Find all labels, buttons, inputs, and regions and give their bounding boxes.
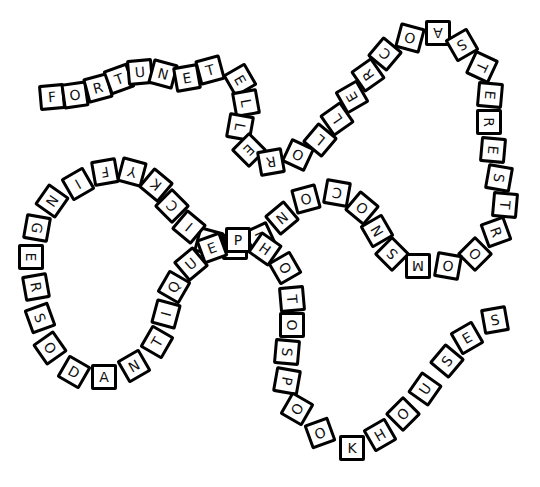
tile-letter: C — [164, 198, 181, 215]
letter-tile[interactable]: R — [21, 272, 51, 302]
letter-tile[interactable]: O — [279, 312, 305, 338]
tile-letter: S — [32, 311, 48, 324]
tile-letter: S — [455, 37, 470, 54]
tile-letter: P — [234, 233, 242, 247]
tile-letter: M — [412, 259, 424, 273]
tile-letter: I — [73, 177, 84, 191]
tile-letter: F — [47, 90, 56, 105]
tile-letter: P — [279, 376, 294, 387]
letter-tile[interactable]: S — [273, 338, 301, 366]
tile-letter: E — [24, 253, 38, 262]
tile-letter: R — [28, 281, 43, 293]
tile-letter: N — [156, 66, 170, 82]
letter-tile[interactable]: T — [139, 324, 175, 360]
letter-tile[interactable]: O — [279, 391, 315, 427]
tile-letter: E — [486, 145, 501, 155]
letter-tile[interactable]: O — [303, 416, 336, 449]
tile-letter: O — [69, 87, 82, 102]
tile-letter: N — [43, 193, 60, 210]
tile-letter: O — [41, 339, 59, 356]
tile-letter: T — [474, 60, 490, 74]
tile-letter: D — [66, 363, 82, 381]
tile-letter: E — [205, 240, 218, 256]
letter-tile[interactable]: R — [476, 109, 502, 135]
tile-letter: O — [441, 258, 454, 274]
tile-letter: A — [99, 370, 109, 384]
tile-letter: N — [126, 357, 142, 374]
tile-letter: T — [498, 200, 513, 210]
letter-tile[interactable]: O — [433, 251, 463, 281]
tile-letter: O — [276, 260, 294, 277]
tile-letter: R — [482, 117, 496, 127]
tile-letter: N — [273, 209, 290, 226]
letter-tile[interactable]: O — [290, 183, 322, 215]
tile-letter: G — [29, 221, 45, 234]
tile-letter: H — [257, 240, 274, 258]
tile-letter: C — [377, 45, 393, 62]
tile-letter: O — [290, 146, 306, 163]
tile-letter: F — [100, 164, 110, 179]
tile-letter: E — [181, 70, 192, 85]
tile-letter: E — [344, 90, 361, 105]
tile-letter: S — [384, 246, 400, 262]
letter-tile[interactable]: S — [480, 305, 510, 335]
tile-letter: E — [232, 73, 249, 88]
tile-letter: Q — [165, 279, 183, 296]
tile-letter: O — [466, 245, 484, 263]
tile-letter: E — [460, 330, 475, 347]
tile-letter: R — [265, 154, 277, 169]
tile-letter: N — [368, 223, 385, 239]
tile-letter: L — [313, 132, 328, 148]
tile-letter: R — [359, 67, 376, 83]
tile-letter: T — [204, 62, 216, 78]
letter-tile[interactable]: O — [32, 330, 68, 366]
tile-letter: T — [285, 294, 300, 304]
tile-letter: Y — [126, 164, 138, 180]
letter-tile[interactable]: G — [22, 213, 52, 243]
tile-letter: R — [91, 80, 104, 96]
tile-letter: L — [329, 112, 345, 126]
letter-tile[interactable]: D — [56, 354, 92, 390]
letter-tile[interactable]: E — [479, 136, 507, 164]
letter-tile[interactable]: N — [116, 348, 152, 384]
tile-letter: T — [149, 335, 165, 349]
tile-letter: U — [134, 65, 145, 80]
tile-letter: K — [347, 441, 356, 455]
tile-letter: T — [113, 71, 126, 87]
tile-letter: U — [183, 255, 200, 272]
word-path-board: FORTUNETELLEROLLERCOASTERESTROOMSNOCONES… — [0, 0, 540, 487]
letter-tile[interactable]: E — [476, 81, 504, 109]
tile-letter: I — [183, 220, 195, 233]
tile-letter: U — [416, 381, 433, 397]
letter-tile[interactable]: F — [90, 157, 120, 187]
tile-letter: O — [285, 319, 299, 330]
tile-letter: H — [372, 426, 388, 443]
letter-tile[interactable]: P — [225, 227, 251, 253]
tile-letter: S — [439, 353, 455, 369]
letter-tile[interactable]: C — [322, 178, 352, 208]
tile-letter: I — [159, 310, 174, 318]
tile-letter: R — [488, 225, 504, 239]
tile-letter: E — [483, 90, 498, 100]
tile-letter: S — [491, 172, 506, 183]
tile-letter: S — [489, 312, 500, 327]
tile-letter: C — [331, 185, 343, 200]
tile-letter: L — [232, 122, 247, 132]
tile-letter: O — [288, 401, 306, 418]
tile-letter: O — [394, 405, 412, 423]
letter-tile[interactable]: T — [278, 285, 306, 313]
letter-tile[interactable]: S — [484, 163, 514, 193]
letter-tile[interactable]: P — [272, 366, 302, 396]
letter-tile[interactable]: A — [91, 364, 117, 390]
letter-tile[interactable]: T — [491, 191, 519, 219]
tile-letter: S — [280, 347, 295, 357]
letter-tile[interactable]: M — [405, 253, 431, 279]
letter-tile[interactable]: T — [194, 54, 226, 86]
tile-letter: A — [433, 26, 443, 40]
letter-tile[interactable]: K — [339, 435, 365, 461]
letter-tile[interactable]: E — [18, 244, 44, 270]
tile-letter: O — [299, 191, 313, 207]
letter-tile[interactable]: U — [407, 371, 443, 407]
letter-tile[interactable]: R — [479, 215, 512, 248]
tile-letter: O — [403, 30, 417, 46]
